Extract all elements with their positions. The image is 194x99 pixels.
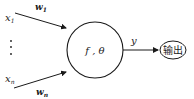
edge-x1-to-neuron xyxy=(15,13,66,28)
neuron-label: f , θ xyxy=(84,45,104,56)
ellipsis-dots xyxy=(10,40,12,55)
output-node-label: 输出 xyxy=(163,44,183,56)
weight-w1: w1 xyxy=(35,2,47,13)
input-x1-label: x1 xyxy=(5,12,14,24)
edge-xn-to-neuron xyxy=(14,72,66,88)
weight-wn-label: wn xyxy=(36,87,48,98)
weight-w1-label: w1 xyxy=(35,2,47,13)
input-xn: xn xyxy=(5,73,15,85)
input-x1: x1 xyxy=(5,12,14,24)
neuron-diagram: x1 w1 xn wn f , θ y 输出 xyxy=(0,0,194,99)
weight-wn: wn xyxy=(36,87,48,98)
output-edge-label: y xyxy=(130,35,137,46)
input-xn-label: xn xyxy=(5,73,15,85)
